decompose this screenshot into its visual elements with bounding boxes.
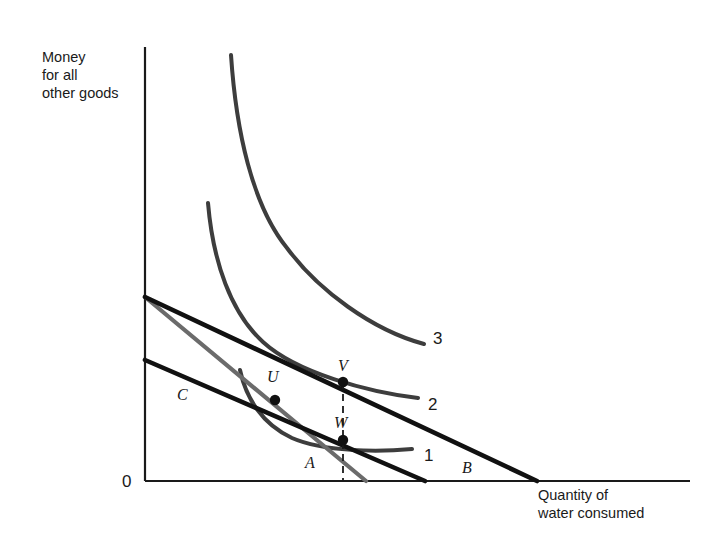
annotation-label-a: A: [304, 454, 315, 471]
x-axis-label-line2: water consumed: [537, 505, 644, 521]
point-label-w: W: [334, 414, 349, 431]
curve-label-2: 2: [428, 395, 437, 414]
budget-line-label-c: C: [177, 386, 188, 403]
point-v-marker: [338, 377, 348, 387]
indifference-curve-3: [231, 55, 424, 344]
curve-label-3: 3: [433, 329, 442, 348]
y-axis-label-line3: other goods: [42, 85, 119, 101]
y-axis-label-line2: for all: [42, 67, 77, 83]
point-u-marker: [270, 395, 280, 405]
indifference-curve-figure: Money for all other goods Quantity of wa…: [0, 0, 708, 543]
budget-line-b: [145, 297, 537, 481]
y-axis-label-line1: Money: [42, 49, 86, 65]
budget-line-label-b: B: [462, 459, 472, 476]
budget-line-c: [145, 360, 425, 481]
point-label-v: V: [338, 357, 350, 374]
point-w-marker: [338, 435, 348, 445]
origin-label: 0: [122, 472, 131, 491]
x-axis-label-line1: Quantity of: [538, 487, 609, 503]
point-label-u: U: [267, 368, 280, 385]
curve-label-1: 1: [424, 446, 433, 465]
